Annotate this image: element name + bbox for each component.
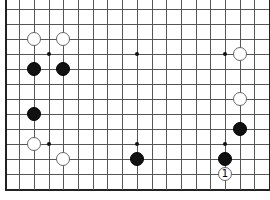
board-edge-right bbox=[269, 0, 270, 190]
grid-line-vertical bbox=[254, 0, 255, 190]
grid-line-vertical bbox=[34, 0, 35, 190]
move-number-label: 1 bbox=[222, 169, 228, 179]
white-stone: 1 bbox=[218, 167, 232, 181]
white-stone bbox=[233, 92, 247, 106]
star-point bbox=[47, 52, 51, 56]
go-board[interactable]: 1 bbox=[0, 0, 270, 200]
grid-line-vertical bbox=[107, 0, 108, 190]
star-point bbox=[135, 52, 139, 56]
black-stone bbox=[27, 62, 41, 76]
white-stone bbox=[233, 47, 247, 61]
grid-line-vertical bbox=[49, 0, 50, 190]
black-stone bbox=[27, 107, 41, 121]
star-point bbox=[47, 142, 51, 146]
black-stone bbox=[56, 62, 70, 76]
grid-line-vertical bbox=[210, 0, 211, 190]
white-stone bbox=[27, 137, 41, 151]
grid-line-vertical bbox=[196, 0, 197, 190]
grid-line-vertical bbox=[93, 0, 94, 190]
star-point bbox=[135, 142, 139, 146]
grid-line-vertical bbox=[122, 0, 123, 190]
star-point bbox=[223, 142, 227, 146]
black-stone bbox=[130, 152, 144, 166]
grid-line-vertical bbox=[166, 0, 167, 190]
black-stone bbox=[218, 152, 232, 166]
star-point bbox=[223, 52, 227, 56]
grid-line-vertical bbox=[19, 0, 20, 190]
white-stone bbox=[27, 32, 41, 46]
grid-line-vertical bbox=[78, 0, 79, 190]
white-stone bbox=[56, 152, 70, 166]
grid-line-vertical bbox=[181, 0, 182, 190]
board-edge-left bbox=[5, 0, 7, 190]
grid-line-vertical bbox=[152, 0, 153, 190]
white-stone bbox=[56, 32, 70, 46]
black-stone bbox=[233, 122, 247, 136]
